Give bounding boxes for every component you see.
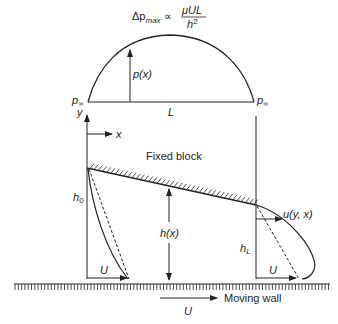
inlet-couette-dashed (89, 169, 129, 279)
lubrication-diagram: Δpmax∝ μUL h2 p(x) p∞ p∞ L y x Fixed blo… (0, 0, 338, 324)
length-label: L (168, 106, 174, 118)
block-hatching (90, 164, 258, 205)
outlet-U-label: U (269, 264, 277, 276)
pressure-curve (88, 35, 254, 102)
outlet-velocity-profile: u(y, x) U (256, 205, 315, 279)
fixed-block: Fixed block h0 h(x) hL (73, 116, 258, 280)
h0-label: h0 (73, 191, 84, 205)
moving-wall: Moving wall U (14, 284, 330, 317)
x-axis-label: x (115, 128, 122, 140)
coordinate-axes: y x (76, 106, 122, 165)
px-label: p(x) (132, 68, 152, 80)
inlet-velocity-profile: U (87, 169, 129, 279)
hL-label: hL (240, 242, 251, 256)
inlet-profile-curve (88, 169, 128, 279)
formula-denominator: h2 (187, 17, 198, 30)
pressure-distribution: Δpmax∝ μUL h2 p(x) p∞ p∞ L (71, 4, 268, 118)
u-profile-label: u(y, x) (283, 208, 313, 220)
formula-numerator: μUL (181, 4, 202, 16)
fixed-block-label: Fixed block (146, 150, 202, 162)
pressure-formula: Δpmax∝ (132, 10, 172, 25)
block-surface (87, 168, 256, 205)
pinf-right-label: p∞ (256, 94, 268, 107)
hx-label: h(x) (160, 227, 179, 239)
wall-U-label: U (184, 305, 192, 317)
wall-hatching (15, 284, 329, 290)
moving-wall-label: Moving wall (224, 292, 281, 304)
y-axis-label: y (76, 106, 84, 118)
inlet-U-label: U (100, 264, 108, 276)
